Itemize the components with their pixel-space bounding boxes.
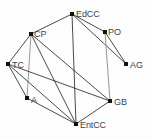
- graph-node-tc[interactable]: [6, 62, 10, 66]
- graph-node-edcc[interactable]: [70, 12, 74, 16]
- graph-node-label-ag: AG: [130, 60, 143, 70]
- graph-node-po[interactable]: [103, 30, 107, 34]
- graph-node-a[interactable]: [25, 96, 29, 100]
- graph-diagram: EdCCCPPOTCAGAGBEntCC: [0, 0, 153, 138]
- graph-node-label-entcc: EntCC: [80, 120, 107, 130]
- graph-node-ag[interactable]: [124, 62, 128, 66]
- graph-node-label-po: PO: [108, 27, 121, 37]
- graph-node-label-tc: TC: [12, 60, 24, 70]
- graph-node-gb[interactable]: [108, 99, 112, 103]
- graph-edge-cp-a: [27, 34, 31, 98]
- graph-node-cp[interactable]: [29, 32, 33, 36]
- graph-node-entcc[interactable]: [74, 122, 78, 126]
- graph-canvas: EdCCCPPOTCAGAGBEntCC: [0, 0, 153, 138]
- graph-node-label-cp: CP: [34, 29, 46, 39]
- graph-node-label-gb: GB: [114, 97, 127, 107]
- label-layer: EdCCCPPOTCAGAGBEntCC: [12, 9, 143, 130]
- graph-edge-cp-entcc: [31, 34, 76, 124]
- graph-edge-cp-gb: [31, 34, 110, 101]
- graph-node-label-edcc: EdCC: [76, 9, 100, 19]
- graph-edge-tc-entcc: [8, 64, 76, 124]
- graph-edge-edcc-ag: [72, 14, 126, 64]
- graph-edge-po-gb: [105, 32, 110, 101]
- graph-node-label-a: A: [31, 95, 37, 105]
